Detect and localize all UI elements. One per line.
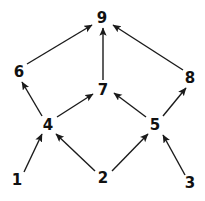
graph-node-4[interactable]: 4 bbox=[43, 118, 53, 133]
graph-node-5[interactable]: 5 bbox=[150, 118, 160, 133]
graph-node-1[interactable]: 1 bbox=[12, 173, 22, 188]
edge-arrow-2-to-5 bbox=[112, 134, 148, 171]
edge-arrow-2-to-4 bbox=[56, 134, 95, 171]
graph-node-8[interactable]: 8 bbox=[185, 71, 195, 86]
edge-arrow-5-to-7 bbox=[114, 93, 146, 117]
graph-node-7[interactable]: 7 bbox=[98, 83, 108, 98]
edge-arrow-4-to-6 bbox=[22, 82, 42, 116]
directed-graph-diagram: 123456789 bbox=[0, 0, 205, 201]
edge-arrow-4-to-7 bbox=[57, 94, 93, 117]
edge-arrow-8-to-9 bbox=[113, 25, 183, 70]
edge-arrow-6-to-9 bbox=[27, 25, 92, 64]
graph-node-3[interactable]: 3 bbox=[185, 176, 195, 191]
graph-node-9[interactable]: 9 bbox=[97, 11, 107, 26]
edge-arrow-3-to-5 bbox=[163, 135, 185, 175]
graph-node-2[interactable]: 2 bbox=[98, 171, 108, 186]
edge-arrow-1-to-4 bbox=[24, 134, 42, 172]
edges-group bbox=[22, 25, 186, 175]
edge-arrow-5-to-8 bbox=[163, 88, 186, 116]
graph-node-6[interactable]: 6 bbox=[14, 65, 24, 80]
